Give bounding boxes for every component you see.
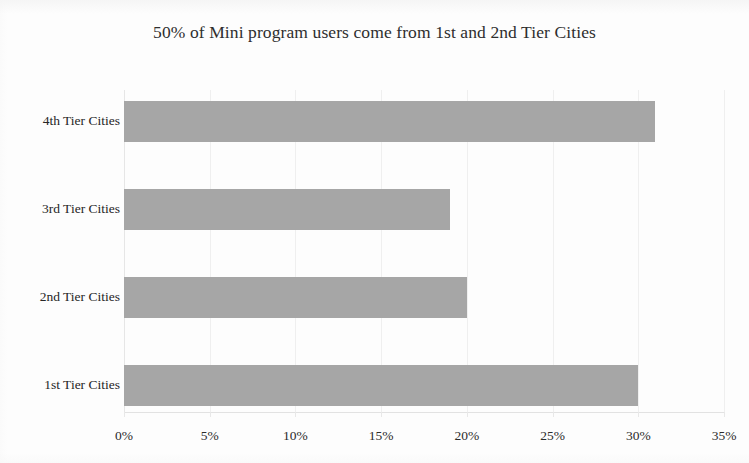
plot-area [124, 90, 724, 412]
chart-page: 50% of Mini program users come from 1st … [0, 0, 749, 463]
bar-4th-tier-cities [124, 101, 655, 142]
x-axis-line [124, 412, 725, 413]
x-axis-tick-label: 30% [626, 428, 651, 444]
x-axis-tick-label: 0% [115, 428, 133, 444]
y-axis-label-2nd-tier-cities: 2nd Tier Cities [6, 289, 120, 305]
x-axis-tick-label: 20% [454, 428, 479, 444]
x-axis-tick-mark [724, 412, 725, 417]
x-axis-tick-mark [467, 412, 468, 417]
x-axis-tick-label: 10% [283, 428, 308, 444]
bar-row [124, 277, 467, 318]
y-axis-label-4th-tier-cities: 4th Tier Cities [6, 113, 120, 129]
x-axis-tick-label: 35% [712, 428, 737, 444]
x-axis-tick-mark [381, 412, 382, 417]
gridline [724, 90, 725, 412]
bar-row [124, 189, 450, 230]
bar-row [124, 101, 655, 142]
bar-1st-tier-cities [124, 365, 638, 406]
x-axis-tick-label: 25% [540, 428, 565, 444]
x-axis-labels: 0%5%10%15%20%25%30%35% [0, 428, 749, 452]
bar-row [124, 365, 638, 406]
x-axis-tick-mark [124, 412, 125, 417]
y-axis-labels: 4th Tier Cities 3rd Tier Cities 2nd Tier… [0, 0, 120, 463]
y-axis-label-3rd-tier-cities: 3rd Tier Cities [6, 201, 120, 217]
x-axis-tick-mark [295, 412, 296, 417]
x-axis-tick-mark [553, 412, 554, 417]
x-axis-tick-mark [210, 412, 211, 417]
bar-3rd-tier-cities [124, 189, 450, 230]
x-axis-tick-mark [638, 412, 639, 417]
bar-2nd-tier-cities [124, 277, 467, 318]
x-axis-tick-label: 15% [369, 428, 394, 444]
x-axis-tick-label: 5% [201, 428, 219, 444]
y-axis-label-1st-tier-cities: 1st Tier Cities [6, 377, 120, 393]
